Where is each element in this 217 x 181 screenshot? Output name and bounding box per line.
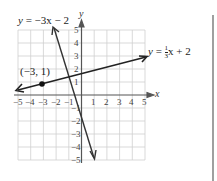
point-label: (−3, 1) [20,65,50,77]
point-marker [39,81,45,87]
coordinate-plane [0,0,217,181]
y-axis-arrow-icon [79,20,84,27]
axes [14,20,154,163]
line2-equation-label: y = 13x + 2 [148,45,191,60]
x-axis-label: x [155,88,159,99]
y-axis-label: y [79,8,83,19]
line1-equation-label: y = −3x − 2 [18,14,69,26]
x-axis-arrow-icon [147,93,154,98]
